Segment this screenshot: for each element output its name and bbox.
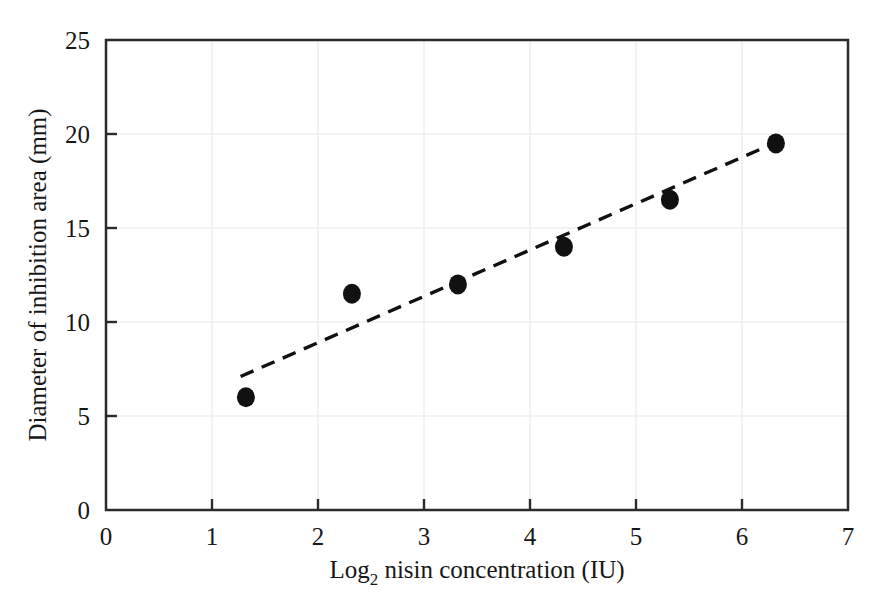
y-axis-title: Diameter of inhibition area (mm) (24, 108, 52, 441)
x-axis-tick-labels: 01234567 (100, 523, 855, 550)
data-point (661, 190, 679, 210)
y-axis-tick-label: 20 (65, 121, 90, 148)
x-axis-tick-label: 0 (100, 523, 113, 550)
x-axis-title: Log2 nisin concentration (IU) (329, 556, 624, 589)
x-axis-tick-label: 5 (630, 523, 643, 550)
scatter-chart: 01234567 0510152025 Log2 nisin concentra… (0, 0, 885, 600)
data-point (343, 284, 361, 304)
x-axis-tick-label: 1 (206, 523, 219, 550)
x-axis-title-main: Log (329, 556, 370, 583)
y-axis-tick-label: 10 (65, 309, 90, 336)
x-axis-tick-label: 3 (418, 523, 431, 550)
y-axis-tick-label: 25 (65, 27, 90, 54)
data-point (767, 133, 785, 153)
figure-container: 01234567 0510152025 Log2 nisin concentra… (0, 0, 885, 600)
y-axis-tick-labels: 0510152025 (65, 27, 90, 524)
y-axis-tick-label: 5 (78, 403, 91, 430)
x-axis-title-subscript: 2 (370, 570, 379, 589)
data-point (449, 274, 467, 294)
y-axis-tick-label: 15 (65, 215, 90, 242)
x-axis-tick-label: 4 (524, 523, 537, 550)
y-axis-tick-label: 0 (78, 497, 91, 524)
x-axis-tick-label: 2 (312, 523, 325, 550)
x-axis-title-rest: nisin concentration (IU) (378, 556, 624, 584)
data-point (555, 237, 573, 257)
data-point (237, 387, 255, 407)
x-axis-tick-label: 6 (736, 523, 749, 550)
x-axis-tick-label: 7 (842, 523, 855, 550)
